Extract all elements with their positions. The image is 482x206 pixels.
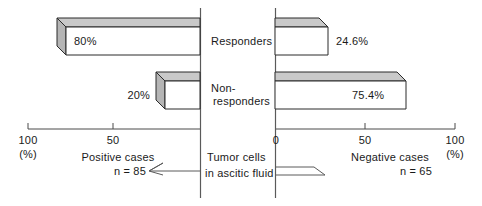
category-label-non-responders-line1: Non- bbox=[211, 82, 236, 94]
right-group-label: Negative cases bbox=[334, 150, 446, 164]
left-axis-unit: (%) bbox=[12, 148, 44, 160]
right-axis-tick-100: 100 bbox=[439, 134, 471, 146]
center-caption-line2: in ascitic fluid bbox=[205, 166, 274, 180]
right-axis-tick-50: 50 bbox=[349, 134, 381, 146]
category-label-non-responders-line2: responders bbox=[213, 95, 270, 107]
right-annotation-arrow bbox=[276, 167, 325, 175]
bar-value-right-non-responders: 75.4% bbox=[352, 89, 384, 101]
left-axis bbox=[28, 123, 200, 129]
left-group-n: n = 85 bbox=[62, 164, 146, 178]
bar-value-left-non-responders: 20% bbox=[84, 89, 150, 101]
bar-right-responders bbox=[275, 18, 328, 55]
bar-value-right-responders: 24.6% bbox=[336, 35, 368, 47]
figure-root: 80% 20% 24.6% 75.4% Responders Non- resp… bbox=[0, 0, 482, 206]
right-axis-tick-0: 0 bbox=[260, 134, 292, 146]
right-group-n: n = 65 bbox=[334, 164, 432, 178]
right-axis bbox=[275, 123, 455, 129]
left-annotation-arrow bbox=[149, 163, 200, 175]
center-caption-line1: Tumor cells bbox=[207, 150, 266, 164]
bar-value-left-responders: 80% bbox=[74, 35, 97, 47]
category-label-responders: Responders bbox=[211, 35, 272, 47]
left-axis-tick-100: 100 bbox=[12, 134, 44, 146]
bar-left-non-responders bbox=[156, 72, 200, 109]
left-axis-tick-50: 50 bbox=[97, 134, 129, 146]
bar-right-non-responders bbox=[275, 72, 406, 109]
left-group-label: Positive cases bbox=[62, 150, 174, 164]
